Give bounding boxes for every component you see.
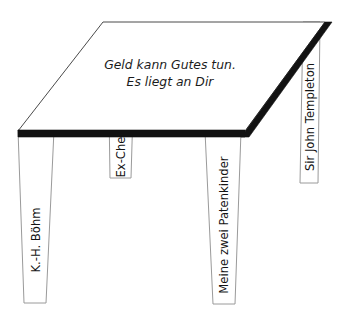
table-illustration: Geld kann Gutes tun. Es liegt an Dir K.-…	[0, 0, 341, 323]
leg-label-front-left: K.-H. Böhm	[29, 207, 43, 272]
leg-label-back-right: Sir John Templeton	[303, 63, 317, 171]
table-diagram: Geld kann Gutes tun. Es liegt an Dir K.-…	[0, 0, 341, 323]
leg-label-front-right: Meine zwei Patenkinder	[217, 156, 231, 294]
quote-line-2: Es liegt an Dir	[127, 74, 215, 89]
table-edge-front	[18, 130, 245, 137]
quote-line-1: Geld kann Gutes tun.	[104, 57, 236, 72]
leg-label-back-left: Ex-Chef	[114, 132, 128, 178]
